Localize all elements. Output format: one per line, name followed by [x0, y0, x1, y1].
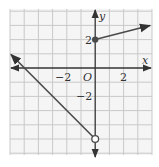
origin-label: O — [83, 71, 92, 84]
x-tick-label-2: 2 — [120, 71, 127, 84]
closed-point — [92, 36, 98, 42]
open-point — [92, 136, 99, 143]
x-tick-label-neg2: −2 — [55, 71, 71, 84]
x-axis-label: x — [142, 54, 149, 67]
piecewise-graph: x y O −2 2 2 −2 — [0, 0, 159, 167]
y-tick-label-neg2: −2 — [76, 90, 92, 103]
y-axis-label: y — [98, 10, 106, 23]
y-tick-label-2: 2 — [85, 34, 92, 47]
